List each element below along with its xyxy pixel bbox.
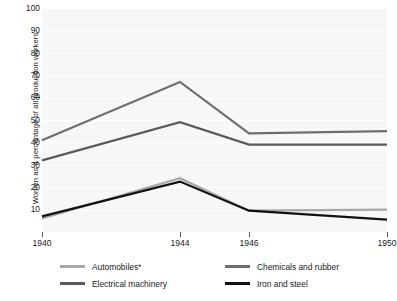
legend-label: Chemicals and rubber [257, 262, 339, 272]
x-axis-tick-label: 1944 [170, 238, 189, 248]
legend-swatch [225, 265, 250, 268]
plot-area [42, 8, 387, 232]
x-axis-tick-label: 1946 [239, 238, 258, 248]
y-axis-tick-label: 40 [31, 138, 40, 146]
y-axis-tick-label: 90 [31, 26, 40, 34]
y-axis-tick-label: 30 [31, 161, 40, 169]
legend-item: Iron and steel [225, 276, 308, 291]
series-line [42, 82, 387, 140]
y-axis-tick-label: 60 [31, 93, 40, 101]
legend-label: Electrical machinery [92, 279, 167, 289]
x-axis-tick-mark [180, 232, 181, 237]
y-axis-tick-label: 10 [31, 205, 40, 213]
y-axis-tick-label: 70 [31, 71, 40, 79]
y-axis-tick-label: 100 [26, 4, 40, 12]
legend-label: Iron and steel [257, 279, 308, 289]
y-axis-tick-label: 50 [31, 116, 40, 124]
legend-label: Automobiles* [92, 262, 141, 272]
legend-swatch [60, 282, 85, 285]
legend-swatch [60, 265, 85, 268]
x-axis-tick-label: 1950 [377, 238, 396, 248]
x-axis-tick-mark [249, 232, 250, 237]
x-axis-tick-mark [387, 232, 388, 237]
series-lines [42, 8, 387, 232]
series-line [42, 182, 387, 220]
x-axis-tick-mark [42, 232, 43, 237]
series-line [42, 178, 387, 218]
y-axis-tick-labels: 102030405060708090100 [14, 0, 40, 232]
series-line [42, 122, 387, 160]
legend-item: Chemicals and rubber [225, 259, 339, 274]
y-axis-tick-label: 20 [31, 183, 40, 191]
legend-item: Automobiles* [60, 259, 141, 274]
legend-item: Electrical machinery [60, 276, 167, 291]
legend-swatch [225, 282, 250, 285]
x-axis-tick-labels: 1940194419461950 [0, 238, 391, 252]
chart-legend: Automobiles*Chemicals and rubberElectric… [60, 259, 380, 295]
y-axis-tick-label: 80 [31, 49, 40, 57]
x-axis-tick-label: 1940 [32, 238, 51, 248]
